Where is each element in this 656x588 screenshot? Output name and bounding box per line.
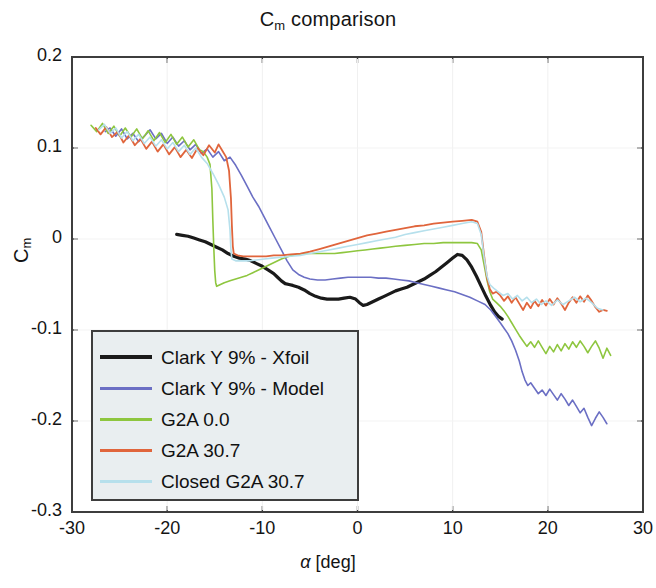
legend-label: G2A 30.7 <box>161 441 240 460</box>
legend-label: Clark Y 9% - Model <box>161 379 324 398</box>
chart-title: Cm comparison <box>0 8 656 33</box>
y-tick-label: -0.3 <box>0 501 62 519</box>
x-tick-label: 0 <box>328 519 388 537</box>
legend-item: Closed G2A 30.7 <box>100 465 352 497</box>
x-tick-label: 20 <box>518 519 578 537</box>
chart-title-rest: comparison <box>285 8 396 30</box>
y-tick-label: 0.2 <box>0 46 62 64</box>
x-axis-label: α [deg] <box>0 552 656 573</box>
x-axis-label-unit: [deg] <box>311 552 356 572</box>
legend-label: G2A 0.0 <box>161 410 230 429</box>
legend-swatch <box>100 387 152 390</box>
y-tick-label: -0.2 <box>0 410 62 428</box>
chart-title-subscript: m <box>274 18 285 33</box>
chart-legend: Clark Y 9% - XfoilClark Y 9% - ModelG2A … <box>91 330 359 501</box>
legend-label: Clark Y 9% - Xfoil <box>161 348 309 367</box>
y-tick-label: 0 <box>0 228 62 246</box>
legend-swatch <box>100 449 152 452</box>
x-tick-label: 30 <box>613 519 656 537</box>
x-axis-label-symbol: α <box>300 552 310 572</box>
legend-swatch <box>100 418 152 421</box>
legend-item: G2A 30.7 <box>100 434 352 466</box>
legend-swatch <box>100 355 152 359</box>
x-tick-label: -30 <box>42 519 102 537</box>
chart-title-main: C <box>260 8 275 30</box>
x-tick-label: 10 <box>423 519 483 537</box>
chart-figure: Cm comparison Cm α [deg] 0.20.10-0.1-0.2… <box>0 0 656 588</box>
legend-item: G2A 0.0 <box>100 403 352 435</box>
y-tick-label: -0.1 <box>0 319 62 337</box>
legend-swatch <box>100 480 152 483</box>
legend-item: Clark Y 9% - Xfoil <box>100 341 352 373</box>
legend-item: Clark Y 9% - Model <box>100 372 352 404</box>
y-axis-label-main: C <box>10 249 32 263</box>
x-tick-label: -10 <box>232 519 292 537</box>
legend-label: Closed G2A 30.7 <box>161 472 305 491</box>
y-tick-label: 0.1 <box>0 137 62 155</box>
x-tick-label: -20 <box>137 519 197 537</box>
